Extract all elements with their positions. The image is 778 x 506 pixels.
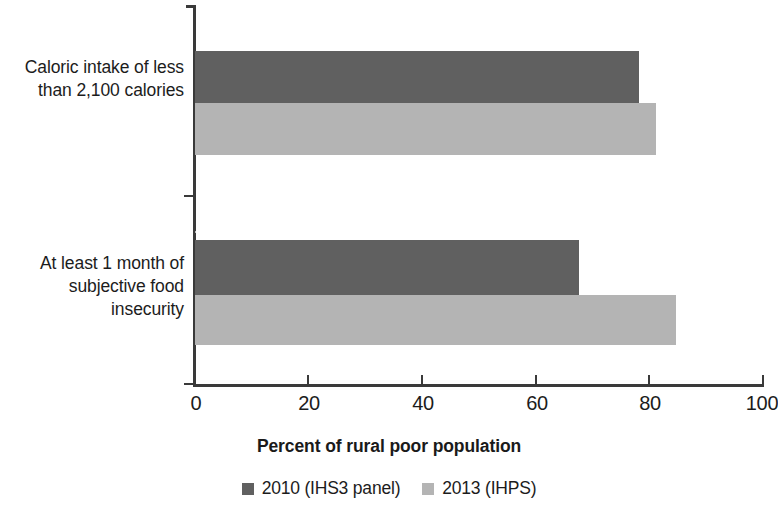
legend-label-2010: 2010 (IHS3 panel) — [262, 478, 401, 499]
legend-swatch-icon-2013 — [422, 483, 434, 495]
x-axis-label-0: 0 — [191, 392, 202, 415]
bar-caloric-intake-2013 — [195, 103, 656, 155]
bar-caloric-intake-2010 — [195, 51, 639, 103]
x-axis-label-80: 80 — [639, 392, 661, 415]
x-axis-line — [193, 384, 764, 387]
legend-item-2013: 2013 (IHPS) — [422, 478, 536, 499]
category-label-food-insecurity: At least 1 month of subjective food inse… — [40, 252, 184, 321]
x-axis-title: Percent of rural poor population — [0, 436, 778, 457]
bar-food-insecurity-2010 — [195, 240, 579, 295]
legend-swatch-icon-2010 — [242, 483, 254, 495]
chart-legend: 2010 (IHS3 panel) 2013 (IHPS) — [0, 478, 778, 499]
x-axis-label-100: 100 — [746, 392, 778, 415]
legend-item-2010: 2010 (IHS3 panel) — [242, 478, 401, 499]
legend-label-2013: 2013 (IHPS) — [442, 478, 536, 499]
x-axis-label-60: 60 — [526, 392, 548, 415]
bar-chart: Caloric intake of less than 2,100 calori… — [0, 0, 778, 506]
scan-artifact-line — [195, 231, 658, 233]
plot-area — [195, 5, 764, 384]
x-axis-label-20: 20 — [298, 392, 320, 415]
y-axis-tick-separator — [184, 195, 194, 197]
bar-food-insecurity-2013 — [195, 295, 676, 345]
x-axis-label-40: 40 — [412, 392, 434, 415]
category-label-caloric-intake: Caloric intake of less than 2,100 calori… — [25, 56, 184, 102]
